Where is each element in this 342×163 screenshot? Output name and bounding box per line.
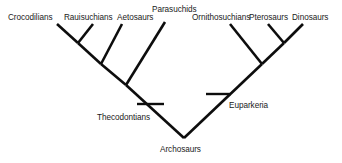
tip-label-aetosaurs: Aetosaurs [117,13,153,22]
branch-group [57,22,303,138]
branch-rauisuchians [78,24,93,43]
tip-label-pterosaurs: Pterosaurs [249,13,288,22]
tip-label-crocodilians: Crocodilians [8,13,52,22]
branch-thecodontians-stem [126,85,184,138]
branch-pterosaurs [268,24,284,43]
tip-label-dinosaurs: Dinosaurs [292,13,328,22]
branch-crocodilians [57,24,78,43]
branch-croc-raui-stem [78,43,101,64]
branch-ornithosuchians [230,24,262,64]
branch-ptero-dino-stem [262,43,284,64]
tip-label-parasuchids: Parasuchids [152,5,197,14]
tip-label-ornithosuchians: Ornithosuchians [192,13,250,22]
branch-aetosaurs [101,24,122,64]
node-label-archosaurs: Archosaurs [160,145,201,154]
node-label-euparkeria: Euparkeria [229,101,268,110]
tip-label-rauisuchians: Rauisuchians [64,13,113,22]
node-label-thecodontians: Thecodontians [97,113,150,122]
tick-mark-group [137,94,231,104]
cladogram-canvas [0,0,342,163]
branch-parasuchids [126,22,165,85]
branch-aeto-clade-stem [101,64,126,85]
cladogram-figure: CrocodiliansRauisuchiansAetosaursParasuc… [0,0,342,163]
branch-dinosaurs [284,24,303,43]
